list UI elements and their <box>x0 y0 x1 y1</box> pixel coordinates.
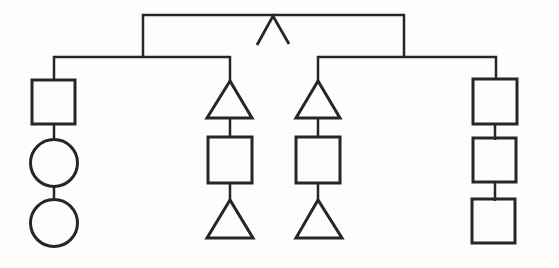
branch-3-square <box>296 137 340 183</box>
branch-2-triangle-1 <box>207 81 252 118</box>
caret-mark <box>257 16 289 45</box>
diagram-canvas <box>0 0 559 268</box>
branch-4-square-1 <box>473 79 517 124</box>
tree-diagram-svg <box>0 0 559 268</box>
branch-1-square <box>32 80 75 124</box>
branch-2-triangle-2 <box>207 200 253 238</box>
branch-1-circle-2 <box>31 200 78 247</box>
branch-1-circle-1 <box>31 140 78 187</box>
branch-4-square-2 <box>473 138 516 182</box>
branch-3-triangle-2 <box>296 200 342 238</box>
branch-4-square-3 <box>472 199 515 243</box>
branch-3-triangle-1 <box>296 81 340 118</box>
branch-2-square <box>208 137 252 183</box>
